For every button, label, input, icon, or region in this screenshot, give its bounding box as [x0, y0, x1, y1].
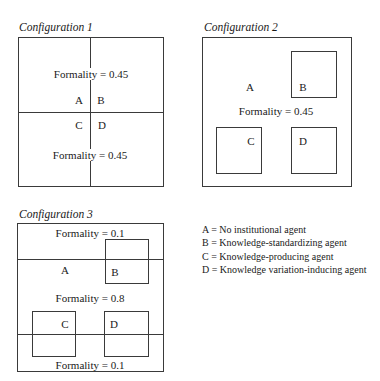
config-1-caption: Configuration 1 — [19, 21, 93, 33]
config-1-label-c: C — [75, 119, 82, 131]
legend-item-d: D = Knowledge variation-inducing agent — [202, 263, 366, 276]
config-1-formality-top: Formality = 0.45 — [53, 68, 129, 80]
config-3-label-a: A — [61, 264, 69, 276]
config-2-label-d: D — [299, 135, 307, 147]
config-2-label-c: C — [247, 135, 254, 147]
config-2-label-a: A — [246, 81, 254, 93]
config-3-label-b: B — [111, 266, 118, 278]
config-2-agent-b-box — [291, 51, 337, 98]
config-1-horizontal-divider — [18, 112, 164, 113]
config-3-label-c: C — [61, 318, 68, 330]
config-3-formality-bottom: Formality = 0.1 — [56, 359, 125, 371]
legend: A = No institutional agent B = Knowledge… — [202, 223, 366, 276]
config-2-agent-c-box — [216, 127, 262, 174]
config-3-label-d: D — [110, 318, 118, 330]
config-1-formality-bottom: Formality = 0.45 — [52, 149, 128, 161]
legend-item-a: A = No institutional agent — [202, 223, 366, 236]
config-2-formality: Formality = 0.45 — [239, 105, 313, 117]
config-1-label-a: A — [75, 94, 83, 106]
config-2-caption: Configuration 2 — [204, 21, 278, 33]
config-3-formality-top: Formality = 0.1 — [56, 227, 125, 239]
config-3-agent-c-box — [32, 311, 76, 357]
legend-item-b: B = Knowledge-standardizing agent — [202, 236, 366, 249]
config-3-formality-middle: Formality = 0.8 — [56, 292, 125, 304]
config-2-label-b: B — [299, 81, 306, 93]
config-1-label-b: B — [97, 94, 104, 106]
config-2-agent-d-box — [291, 127, 337, 174]
legend-item-c: C = Knowledge-producing agent — [202, 250, 366, 263]
config-3-caption: Configuration 3 — [19, 208, 93, 220]
config-1-label-d: D — [98, 119, 106, 131]
